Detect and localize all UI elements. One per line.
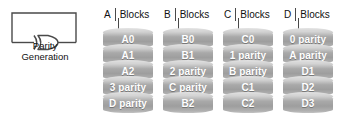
parity-generation-label: Parity Generation	[2, 40, 88, 62]
disk-block-label: B2	[163, 95, 213, 112]
disk-header-b: B Blocks	[164, 8, 209, 21]
blocks-label-a: Blocks	[116, 9, 149, 20]
blocks-label-c: Blocks	[236, 9, 269, 20]
disk-header-d: D Blocks	[284, 8, 330, 21]
disk-stack-d: 0 parity A parity D1 D2 D3	[283, 28, 333, 112]
disk-stack-c: C0 1 parity B parity C1 C2	[223, 28, 273, 112]
disk-header-a: A Blocks	[104, 8, 149, 21]
disk-block: D3	[283, 92, 333, 112]
disk-letter-a: A	[104, 9, 115, 20]
disk-block: D parity	[103, 92, 153, 112]
disk-block: B2	[163, 92, 213, 112]
disk-letter-d: D	[284, 9, 295, 20]
disk-block-label: D3	[283, 95, 333, 112]
disk-block-label: D parity	[103, 95, 153, 112]
blocks-label-d: Blocks	[296, 9, 329, 20]
disk-letter-c: C	[224, 9, 235, 20]
disk-letter-b: B	[164, 9, 175, 20]
disk-block: C2	[223, 92, 273, 112]
blocks-label-b: Blocks	[176, 9, 209, 20]
disk-stack-a: A0 A1 A2 3 parity D parity	[103, 28, 153, 112]
disk-header-c: C Blocks	[224, 8, 270, 21]
disk-stack-b: B0 B1 2 parity C parity B2	[163, 28, 213, 112]
raid-parity-diagram: Parity Generation A Blocks B Blocks C Bl…	[0, 0, 347, 137]
disk-block-label: C2	[223, 95, 273, 112]
